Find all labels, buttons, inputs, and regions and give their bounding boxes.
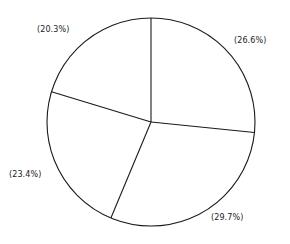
pie-slice-label-top-left: (20.3%)	[37, 25, 69, 35]
pie-slice-label-bottom-right: (29.7%)	[211, 213, 243, 223]
pie-slice-label-left: (23.4%)	[9, 170, 41, 180]
pie-slice-label-right: (26.6%)	[234, 36, 266, 46]
pie-chart-figure: (26.6%) (29.7%) (23.4%) (20.3%)	[0, 0, 290, 244]
